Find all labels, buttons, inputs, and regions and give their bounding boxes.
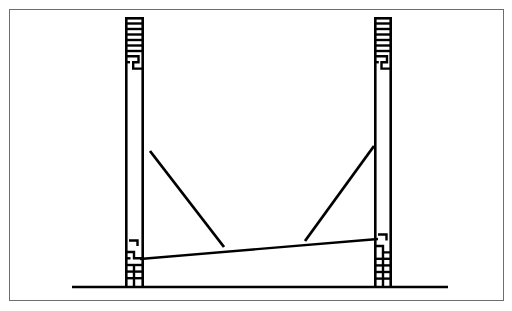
left-column-top-hatch — [126, 24, 143, 52]
figure-screenshot: Two-column portal frame elevation with s… — [0, 0, 512, 311]
right-diagonal-brace — [305, 146, 374, 241]
left-column-bottom-hatch — [126, 241, 143, 289]
right-column-bottom-hatch — [375, 235, 391, 289]
left-diagonal-brace — [150, 151, 224, 247]
left-column — [125, 17, 144, 288]
structural-frame-drawing — [0, 0, 512, 311]
right-column-top-hook — [376, 56, 391, 68]
right-column-top-hatch — [375, 24, 391, 52]
right-column — [374, 17, 392, 288]
sloping-beam — [140, 239, 378, 259]
left-column-top-hook — [127, 56, 143, 68]
